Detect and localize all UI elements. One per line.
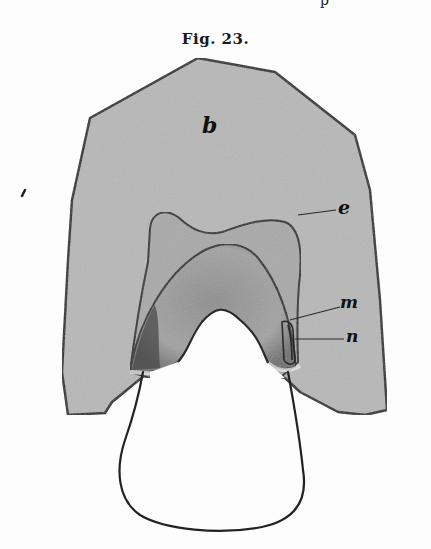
stray-ink-mark [22, 190, 25, 196]
anatomical-figure [0, 0, 431, 549]
label-e: e [338, 196, 350, 218]
hanging-loop [120, 372, 305, 531]
label-b: b [202, 112, 217, 138]
label-m: m [340, 292, 358, 312]
label-n: n [346, 326, 358, 346]
page: p Fig. 23. [0, 0, 431, 549]
